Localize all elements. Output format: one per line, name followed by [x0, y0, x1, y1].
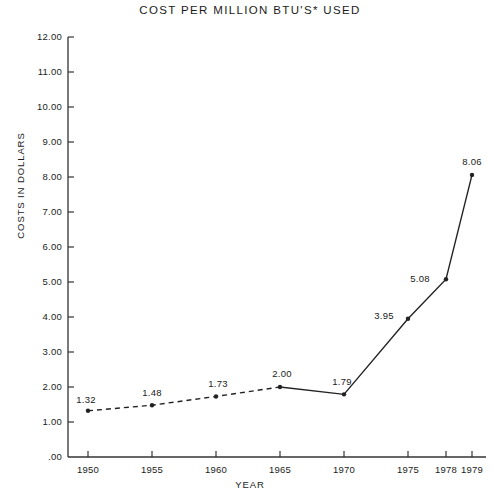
data-point-marker	[444, 277, 448, 281]
axes	[68, 37, 486, 457]
series-segment-solid	[280, 175, 472, 394]
data-point-marker	[470, 173, 474, 177]
chart-figure: COST PER MILLION BTU'S* USED COSTS IN DO…	[0, 0, 500, 504]
data-point-marker	[278, 385, 282, 389]
data-point-marker	[150, 403, 154, 407]
data-markers	[86, 173, 474, 413]
plot-area	[0, 0, 500, 504]
data-point-marker	[342, 392, 346, 396]
data-point-marker	[86, 409, 90, 413]
data-point-marker	[406, 317, 410, 321]
data-series	[88, 175, 472, 411]
data-point-marker	[214, 394, 218, 398]
series-segment-dashed	[88, 387, 280, 411]
